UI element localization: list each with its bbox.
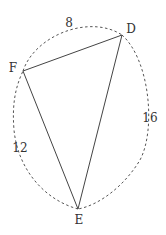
arc-label-de: 16 — [142, 112, 157, 124]
vertex-label-f: F — [9, 62, 17, 74]
arc-label-fd: 8 — [65, 17, 73, 29]
vertex-label-e: E — [75, 214, 84, 226]
diagram-svg — [0, 0, 166, 235]
vertex-label-d: D — [126, 23, 136, 35]
diagram-canvas: D F E 8 16 12 — [0, 0, 166, 235]
dashed-arc-ef — [13, 71, 78, 209]
dashed-arc-de — [78, 35, 149, 209]
arc-label-ef: 12 — [12, 142, 27, 154]
dashed-arc-fd — [23, 27, 122, 71]
edge-ef — [23, 71, 78, 209]
edge-fd — [23, 35, 122, 71]
edge-de — [78, 35, 122, 209]
